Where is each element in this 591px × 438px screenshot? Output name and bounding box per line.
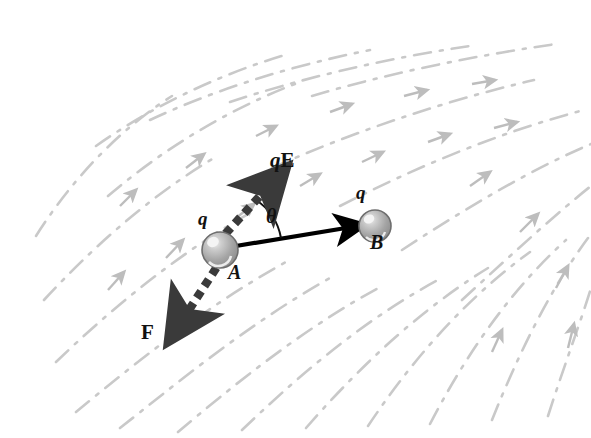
electric-field-lines-upper: [96, 44, 591, 300]
F-label-text: F: [141, 320, 154, 344]
charge-label-a: q: [198, 209, 208, 228]
point-label-a: A: [228, 262, 241, 282]
qE-vector-label: qE: [270, 150, 295, 171]
physics-field-diagram: q A q B qE F θ: [0, 0, 591, 438]
electric-field-lines: [36, 96, 591, 432]
qE-label-q: q: [270, 148, 281, 172]
charge-label-b: q: [356, 183, 366, 202]
angle-label-theta: θ: [266, 206, 276, 226]
qE-label-E: E: [281, 148, 295, 172]
F-vector-label: F: [141, 322, 154, 343]
displacement-vector-ab: [224, 225, 364, 248]
diagram-canvas: [0, 0, 591, 438]
point-label-b: B: [370, 232, 383, 252]
